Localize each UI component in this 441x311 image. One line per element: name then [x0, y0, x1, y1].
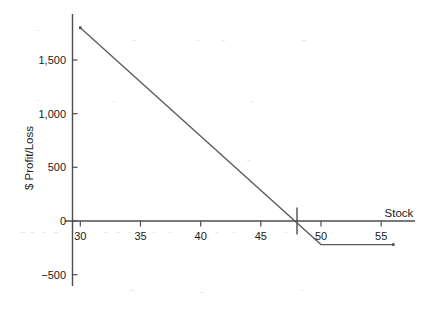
y-tick-label-1500: 1,500 [38, 54, 66, 66]
x-axis [65, 221, 415, 227]
x-tick-label-40: 40 [195, 230, 207, 242]
x-axis-title: Stock [385, 207, 414, 219]
x-tick-label-30: 30 [74, 230, 86, 242]
y-tick-label-minus500: −500 [41, 269, 66, 281]
series-profit-loss [79, 26, 395, 246]
y-tick-label-500: 500 [48, 161, 66, 173]
series-start-point [79, 26, 82, 29]
payoff-chart: 1,500 1,000 500 0 −500 30 35 40 45 50 55… [0, 0, 441, 311]
series-end-point [392, 243, 395, 246]
y-tick-label-0: 0 [60, 215, 66, 227]
payoff-line [80, 28, 393, 245]
x-tick-label-50: 50 [315, 230, 327, 242]
y-axis-title: $ Profit/Loss [23, 126, 35, 190]
x-tick-label-45: 45 [255, 230, 267, 242]
x-tick-label-35: 35 [134, 230, 146, 242]
chart-canvas: 1,500 1,000 500 0 −500 30 35 40 45 50 55… [0, 0, 441, 311]
y-axis [73, 14, 78, 286]
x-tick-label-55: 55 [375, 230, 387, 242]
y-tick-label-1000: 1,000 [38, 108, 66, 120]
